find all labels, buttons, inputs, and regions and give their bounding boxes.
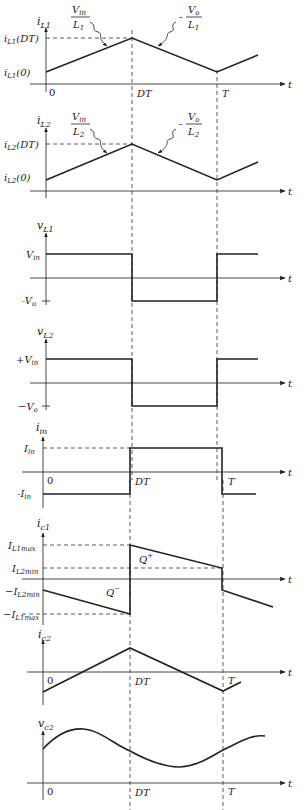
x-axis-label: t	[288, 574, 293, 585]
y-axis-label: vL2	[37, 325, 54, 340]
y-tick-iin: Iin	[23, 443, 35, 456]
svg-text:Vin: Vin	[72, 4, 86, 17]
panel-vL2: t vL2 +Vin −Vo	[16, 325, 293, 414]
y-tick-neg-il1max: −IL1max	[3, 609, 39, 622]
panel-vL1: t vL1 Vin -Vo	[22, 219, 293, 308]
y-tick-neg-vo: −Vo	[18, 401, 38, 414]
y-tick-peak: iL1(DT)	[4, 33, 39, 46]
y-tick-neg-vo: -Vo	[22, 295, 36, 308]
panel-iL1: t iL1 iL1(DT) iL1(0) 0 DT T Vin L1 - Vo …	[4, 4, 293, 99]
y-tick-vin: Vin	[26, 249, 40, 262]
svg-text:L1: L1	[187, 19, 199, 32]
y-axis-label: iL2	[37, 114, 51, 129]
x-tick-t: T	[228, 786, 236, 797]
y-tick-neg-il2min: −IL2min	[5, 586, 40, 599]
slope-annotation-fall: - Vo L1	[158, 4, 202, 46]
x-tick-dt: DT	[134, 476, 151, 487]
x-tick-dt: DT	[134, 676, 151, 687]
vL1-waveform	[46, 254, 258, 301]
y-tick-neg-iin: -Iin	[17, 488, 32, 501]
svg-text:Vo: Vo	[188, 4, 199, 17]
y-tick-peak: iL2(DT)	[4, 139, 39, 152]
slope-annotation-rise: Vin L2	[71, 111, 107, 153]
iL1-waveform	[46, 38, 258, 72]
y-axis-label: vL1	[37, 219, 54, 234]
svg-text:L1: L1	[72, 19, 84, 32]
y-tick-il1max: IL1max	[7, 540, 36, 553]
x-axis-label: t	[288, 667, 293, 678]
svg-text:Vo: Vo	[188, 111, 199, 124]
svg-text:-: -	[179, 118, 182, 129]
svg-text:-: -	[179, 11, 182, 22]
x-axis-label: t	[288, 79, 293, 90]
y-axis-label: vc2	[38, 717, 54, 732]
svg-text:Vin: Vin	[72, 111, 86, 124]
x-tick-zero: 0	[47, 786, 53, 797]
y-tick-initial: iL2(0)	[4, 172, 31, 185]
slope-annotation-fall: - Vo L2	[158, 111, 202, 153]
x-tick-t: T	[222, 88, 230, 99]
charge-q-minus: Q−	[106, 585, 120, 598]
x-tick-t: T	[228, 476, 236, 487]
converter-waveforms-figure: t iL1 iL1(DT) iL1(0) 0 DT T Vin L1 - Vo …	[0, 0, 308, 810]
iL2-waveform	[46, 144, 258, 180]
x-tick-dt: DT	[136, 88, 153, 99]
y-axis-label: ic1	[37, 517, 50, 532]
panel-iL2: t iL2 iL2(DT) iL2(0) Vin L2 - Vo L2	[4, 111, 293, 198]
time-mark-lines-lower	[130, 480, 223, 810]
charge-q-plus: Q+	[139, 552, 153, 565]
x-axis-label: t	[288, 378, 293, 389]
ic1-waveform	[43, 545, 273, 614]
y-tick-vin: +Vin	[16, 354, 39, 367]
y-axis-label: iin	[36, 421, 47, 436]
panel-ic1: t ic1 IL1max IL2min −IL2min −IL1max Q+ Q…	[3, 517, 293, 625]
vL2-waveform	[46, 359, 258, 406]
x-axis-label: t	[288, 467, 293, 478]
x-tick-dt: DT	[134, 787, 151, 798]
y-tick-il2min: IL2min	[11, 563, 39, 576]
iin-waveform	[43, 448, 256, 494]
svg-text:L2: L2	[72, 126, 85, 139]
y-axis-label: iL1	[37, 15, 51, 30]
x-axis-label: t	[288, 778, 293, 789]
panel-iin: t iin Iin -Iin 0 DT T	[17, 421, 293, 508]
vc2-waveform	[43, 729, 265, 767]
y-tick-initial: iL1(0)	[4, 67, 31, 80]
y-axis-label: ic2	[38, 628, 51, 643]
x-axis-label: t	[288, 273, 293, 284]
panel-vc2: t vc2 0 DT T	[27, 717, 293, 800]
x-tick-zero: 0	[47, 675, 53, 686]
panel-ic2: t ic2 0 DT T	[27, 628, 293, 705]
x-tick-zero: 0	[49, 87, 55, 98]
x-tick-zero: 0	[47, 475, 53, 486]
x-axis-label: t	[288, 186, 293, 197]
slope-annotation-rise: Vin L1	[71, 4, 107, 46]
svg-text:L2: L2	[187, 126, 200, 139]
